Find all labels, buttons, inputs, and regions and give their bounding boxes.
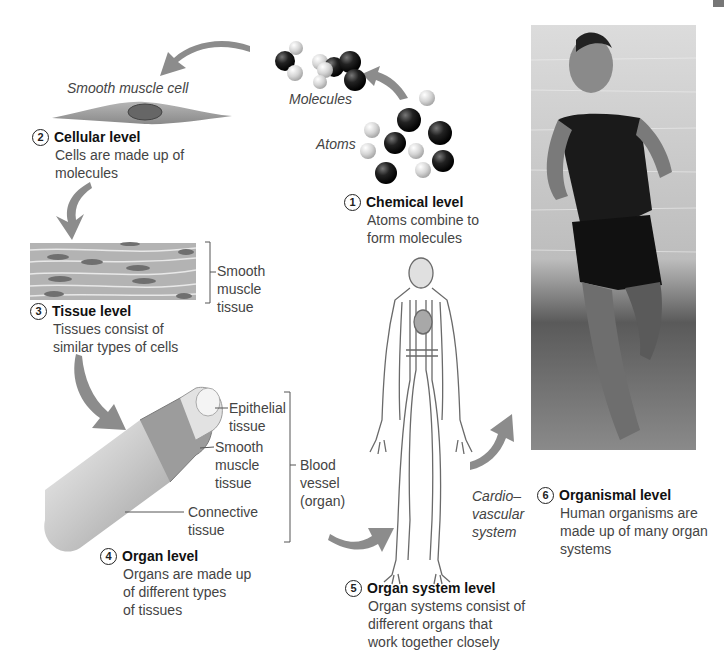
arrow-atoms-to-molecules	[362, 66, 408, 100]
level-number-badge: 6	[537, 487, 554, 504]
label-cardiovascular-system: Cardio– vascular system	[472, 487, 524, 541]
level-number-badge: 3	[30, 303, 47, 320]
level-number-badge: 1	[344, 194, 361, 211]
label-atoms: Atoms	[316, 136, 356, 152]
level-organ: 4Organ level Organs are made up of diffe…	[100, 548, 251, 619]
label-molecules: Molecules	[289, 91, 352, 107]
level-title: Organismal level	[559, 487, 671, 503]
arrow-system-to-organism	[470, 414, 514, 470]
callout-smooth-muscle-tissue-organ: Smooth muscle tissue	[215, 438, 263, 492]
level-title: Cellular level	[54, 129, 140, 145]
smooth-muscle-cell-graphic	[52, 102, 232, 124]
level-number-badge: 5	[345, 580, 362, 597]
level-tissue: 3Tissue level Tissues consist of similar…	[30, 303, 178, 356]
level-number-badge: 2	[32, 129, 49, 146]
level-cellular: 2Cellular level Cells are made up of mol…	[32, 129, 184, 182]
arrow-organ-to-system	[328, 528, 394, 552]
atoms-graphic	[360, 90, 454, 184]
arrow-tissue-to-organ	[74, 354, 126, 430]
callout-blood-vessel: Blood vessel (organ)	[300, 456, 345, 510]
arrow-molecules-to-cell	[160, 41, 250, 76]
level-organismal: 6Organismal level Human organisms are ma…	[537, 487, 708, 558]
callout-connective-tissue: Connective tissue	[188, 503, 258, 539]
arrow-cell-to-tissue	[56, 182, 92, 240]
corner-tab	[713, 0, 724, 7]
level-title: Chemical level	[366, 194, 463, 210]
runner-photo	[531, 25, 696, 450]
label-smooth-muscle-cell: Smooth muscle cell	[67, 80, 188, 96]
level-title: Organ level	[122, 548, 198, 564]
molecules-graphic	[275, 41, 366, 91]
level-chemical: 1Chemical level Atoms combine to form mo…	[344, 194, 479, 247]
callout-smooth-muscle-tissue: Smooth muscle tissue	[217, 262, 265, 316]
level-title: Tissue level	[52, 303, 131, 319]
smooth-muscle-tissue-graphic	[30, 242, 216, 303]
level-title: Organ system level	[367, 580, 495, 596]
level-number-badge: 4	[100, 548, 117, 565]
level-organ-system: 5Organ system level Organ systems consis…	[345, 580, 525, 651]
callout-epithelial-tissue: Epithelial tissue	[229, 399, 286, 435]
